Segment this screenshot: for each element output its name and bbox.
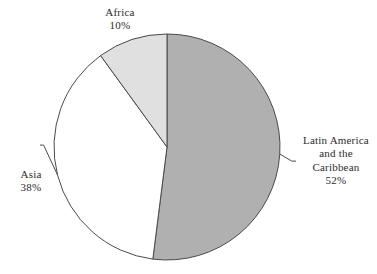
pie-label-latin-percent: 52% xyxy=(298,174,374,187)
pie-slice-latin-america[interactable] xyxy=(153,34,280,260)
pie-label-asia: Asia 38% xyxy=(6,168,56,195)
pie-label-latin-line2: and the xyxy=(319,147,352,159)
pie-slices xyxy=(54,34,280,260)
leader-line-latin-america xyxy=(280,154,296,161)
pie-chart-figure: Africa 10% Asia 38% Latin America and th… xyxy=(0,0,377,274)
pie-label-africa: Africa 10% xyxy=(84,6,156,33)
pie-label-asia-name: Asia xyxy=(21,168,42,180)
pie-label-latin-america: Latin America and the Caribbean 52% xyxy=(298,134,374,188)
pie-label-latin-line1: Latin America xyxy=(303,134,369,146)
pie-label-latin-line3: Caribbean xyxy=(312,161,359,173)
pie-label-africa-name: Africa xyxy=(105,6,134,18)
pie-label-africa-percent: 10% xyxy=(84,19,156,32)
pie-label-asia-percent: 38% xyxy=(6,181,56,194)
